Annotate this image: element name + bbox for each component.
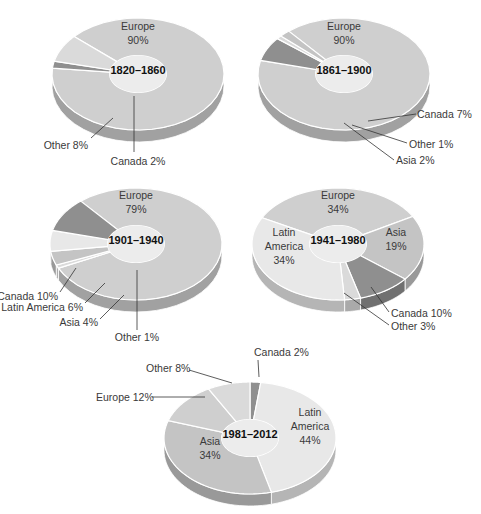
label-europe-pct: 90% (127, 34, 148, 46)
label-other: Other 8% (146, 362, 190, 374)
label-canada: Canada 7% (417, 108, 472, 120)
label-latin-america: Latin America 6% (1, 301, 83, 313)
label-asia: Asia 2% (396, 154, 435, 166)
label-other: Other 8% (44, 139, 88, 151)
label-other: Other 1% (409, 138, 453, 150)
label-other: Other 3% (391, 320, 435, 332)
period-title: 1820–1860 (110, 64, 165, 76)
label-america: America (265, 240, 304, 252)
label-asia-pct: 34% (199, 449, 220, 461)
label-europe-pct: 34% (327, 203, 348, 215)
label-canada: Canada 2% (111, 155, 166, 167)
immigration-pie-charts: Europe 90% 1820–1860 Other 8% Canada 2% … (0, 0, 481, 514)
period-title: 1941–1980 (310, 234, 365, 246)
label-europe-pct: 90% (333, 34, 354, 46)
label-asia-pct: 19% (385, 240, 406, 252)
period-title: 1861–1900 (316, 64, 371, 76)
label-europe: Europe (119, 189, 153, 201)
period-title: 1901–1940 (108, 234, 163, 246)
label-europe: Europe (121, 20, 155, 32)
label-asia: Asia (386, 226, 407, 238)
label-europe: Europe (327, 20, 361, 32)
label-europe-pct: 79% (125, 203, 146, 215)
label-asia: Asia 4% (59, 316, 98, 328)
label-america: America (291, 420, 330, 432)
label-asia: Asia (200, 435, 221, 447)
label-europe: Europe (321, 189, 355, 201)
label-latin-america-pct: 44% (299, 434, 320, 446)
label-canada: Canada 2% (254, 346, 309, 358)
label-latin: Latin (273, 226, 296, 238)
period-title: 1981–2012 (222, 428, 277, 440)
label-latin: Latin (299, 406, 322, 418)
label-europe: Europe 12% (96, 391, 154, 403)
label-canada: Canada 10% (391, 307, 452, 319)
label-latin-america-pct: 34% (273, 254, 294, 266)
label-other: Other 1% (115, 331, 159, 343)
